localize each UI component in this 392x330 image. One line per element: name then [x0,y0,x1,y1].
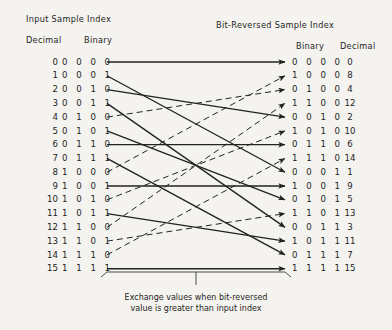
caption-line-1: Exchange values when bit-reversed [0,292,392,303]
diagram-caption: Exchange values when bit-reversed value … [0,292,392,314]
exchange-bracket [101,272,291,285]
bit-reversal-diagram: Input Sample Index Decimal Binary Bit-Re… [0,0,392,330]
mapping-wires [0,0,392,330]
caption-line-2: value is greater than input index [0,303,392,314]
